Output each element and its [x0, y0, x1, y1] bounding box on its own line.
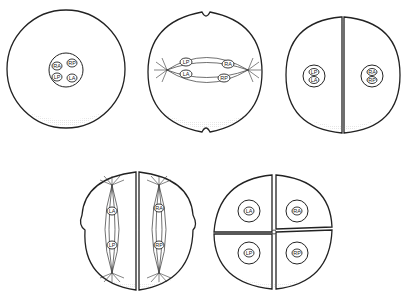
- label-la: LA: [109, 208, 116, 214]
- label-la: LA: [311, 77, 318, 83]
- stage-two-cell: LP LA RA RP: [286, 17, 400, 133]
- label-la: LA: [183, 71, 190, 77]
- label-lp: LP: [109, 242, 116, 248]
- label-la: LA: [246, 208, 253, 214]
- embryo-cleavage-diagram: RA RP LP LA LP RA LA RP LP: [0, 0, 410, 295]
- label-ra: RA: [368, 69, 376, 75]
- label-ra: RA: [224, 61, 232, 67]
- label-rp: RP: [293, 250, 301, 256]
- label-ra: RA: [155, 205, 163, 211]
- label-lp: LP: [54, 74, 61, 80]
- label-lp: LP: [183, 59, 190, 65]
- label-lp: LP: [311, 69, 318, 75]
- label-rp: RP: [68, 60, 76, 66]
- label-rp: RP: [368, 77, 376, 83]
- label-rp: RP: [155, 242, 163, 248]
- label-ra: RA: [293, 208, 301, 214]
- label-lp: LP: [246, 250, 253, 256]
- stage-four-cell: LA RA LP RP: [214, 175, 332, 289]
- stage-second-spindles: LA LP RA RP: [81, 172, 196, 290]
- label-ra: RA: [53, 63, 61, 69]
- stage-first-spindle: LP RA LA RP: [148, 12, 262, 132]
- label-rp: RP: [220, 75, 228, 81]
- label-la: LA: [69, 75, 76, 81]
- stage-one-cell: RA RP LP LA: [7, 10, 125, 128]
